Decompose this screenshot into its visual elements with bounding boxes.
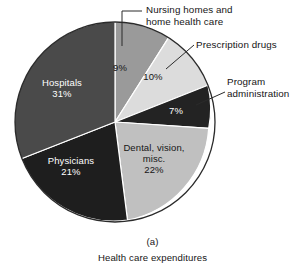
pie-chart-figure: Hospitals 31% Physicians 21% Dental, vis… [0,0,305,269]
pie-value-prescription-drugs: 10% [137,71,169,82]
pie-label-physicians: Physicians 21% [30,155,112,177]
pie-value-program-administration: 7% [163,105,189,116]
pie-label-dental-vision-misc: Dental, vision, misc. 22% [113,142,195,176]
pie-value-nursing-homes: 9% [107,62,133,73]
pie-callout-prescription-drugs: Prescription drugs [196,39,304,51]
pie-callout-nursing-homes: Nursing homes and home health care [146,4,298,27]
pie-callout-program-administration: Program administration [227,76,305,99]
figure-caption-title: Health care expenditures [0,252,305,263]
figure-caption-index: (a) [0,236,305,247]
pie-label-hospitals: Hospitals 31% [22,77,102,99]
